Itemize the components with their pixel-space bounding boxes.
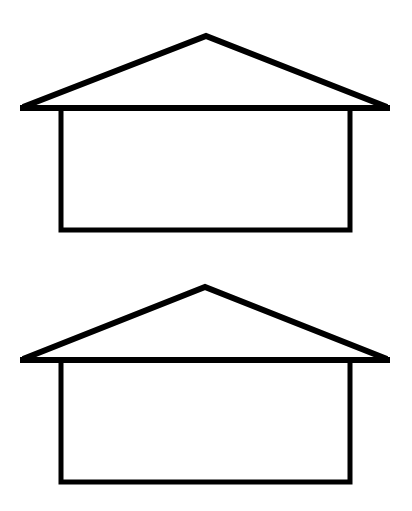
- roof-bottom: [23, 287, 387, 359]
- roof-top: [23, 36, 387, 107]
- house-body-bottom: [61, 360, 350, 482]
- house-top: [20, 36, 390, 230]
- house-bottom: [20, 287, 390, 482]
- house-drawing: [0, 0, 412, 511]
- house-body-top: [61, 108, 350, 230]
